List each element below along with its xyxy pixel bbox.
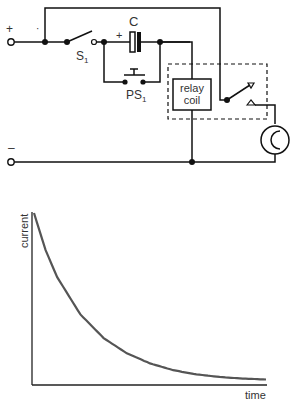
pushbutton-ps1-label: PS1 [126, 88, 147, 104]
switch-s1-text: S [76, 49, 84, 63]
lamp-return-wire [12, 154, 275, 162]
x-axis-label: time [245, 389, 266, 401]
lamp-filament [271, 131, 280, 149]
relay-contact-blade [227, 85, 250, 100]
capacitor-c-positive-plate [130, 32, 135, 52]
lamp-feed-wire [255, 105, 275, 124]
y-axis-label: current [18, 214, 30, 248]
current-decay-curve [34, 213, 266, 380]
pushbutton-bypass-wire-right [143, 42, 160, 82]
lamp-icon [261, 126, 289, 154]
switch-s1-subscript: 1 [84, 56, 89, 65]
junction-dot [64, 39, 70, 45]
positive-terminal-label: + [6, 22, 13, 36]
relay-coil-label-line2: coil [184, 94, 201, 106]
relay-coil-label-line1: relay [180, 82, 204, 94]
positive-terminal [8, 39, 14, 45]
circuit-diagram [8, 8, 289, 165]
relay-feed-wire [160, 42, 192, 79]
junction-dot [140, 79, 145, 84]
junction-dot [122, 79, 127, 84]
pushbutton-ps1-subscript: 1 [142, 95, 147, 104]
stray-mark: · [36, 23, 39, 34]
junction-dot [189, 159, 195, 165]
switch-s1-blade [67, 31, 92, 42]
capacitor-polarity-label: + [116, 29, 122, 41]
pushbutton-bypass-wire [104, 42, 125, 82]
relay-contact-lower-terminal [247, 100, 255, 105]
diagram-canvas: + · – S1 C + PS1 relay coil current time [0, 0, 296, 407]
current-time-chart: current time [18, 212, 267, 401]
junction-dot [42, 39, 48, 45]
relay-contact-upper-terminal [248, 83, 254, 88]
junction-dot [224, 97, 230, 103]
pushbutton-ps1-text: PS [126, 88, 142, 102]
capacitor-c-negative-plate [137, 32, 141, 52]
junction-dot [157, 39, 163, 45]
switch-s1-label: S1 [76, 49, 89, 65]
negative-terminal-label: – [8, 141, 15, 155]
negative-terminal [8, 159, 14, 165]
junction-dot [101, 39, 107, 45]
capacitor-c-label: C [129, 14, 138, 29]
switch-open-terminal [92, 40, 97, 45]
